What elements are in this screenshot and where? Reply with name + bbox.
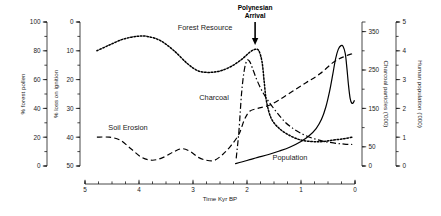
axis-loss_on_ignition: 01020304050% loss on ignition <box>52 18 80 169</box>
axis-charcoal_particles: 350250150500Charcoal particles ('000) <box>362 22 390 169</box>
series-label-charcoal: Charcoal <box>199 93 229 102</box>
axis-title: % loss on ignition <box>52 69 59 118</box>
axis-title: Time Kyr BP <box>203 195 238 202</box>
axis-tick-label: 100 <box>30 18 41 25</box>
axis-tick-label: 50 <box>369 143 377 150</box>
axis-tick-label: 4 <box>403 47 407 54</box>
series-label-soil-erosion: Soil Erosion <box>108 123 147 132</box>
axis-tick-label: 20 <box>66 76 74 83</box>
axis-tick-label: 0 <box>70 18 74 25</box>
axis-time: 543210Time Kyr BP <box>83 180 357 202</box>
axis-tick-label: 40 <box>33 105 41 112</box>
axis-spine <box>362 22 366 166</box>
axis-tick-label: 50 <box>66 162 74 169</box>
annotation-text-line2: Arrival <box>245 12 266 19</box>
annotation-text-line1: Polynesian <box>238 4 273 12</box>
axis-tick-label: 3 <box>191 186 195 193</box>
axis-tick-label: 0 <box>37 162 41 169</box>
axis-tick-label: 350 <box>369 28 380 35</box>
axis-tick-label: 80 <box>33 47 41 54</box>
series-label-forest-resource: Forest Resource <box>178 23 233 32</box>
axis-tick-label: 0 <box>353 186 357 193</box>
down-arrow-icon <box>252 38 258 45</box>
axis-tick-label: 40 <box>66 134 74 141</box>
series-line <box>235 45 354 163</box>
axis-tick-label: 1 <box>299 186 303 193</box>
axis-tick-label: 0 <box>369 162 373 169</box>
series-label-population: Population <box>273 153 308 162</box>
axis-tick-label: 20 <box>33 134 41 141</box>
chart-figure: 100806040200% forest pollen01020304050% … <box>0 0 441 216</box>
axis-tick-label: 150 <box>369 105 380 112</box>
axis-tick-label: 5 <box>403 18 407 25</box>
axis-forest_pollen: 100806040200% forest pollen <box>19 18 47 169</box>
annotation-polynesian-arrival: PolynesianArrival <box>238 4 273 45</box>
axis-tick-label: 10 <box>66 47 74 54</box>
axis-tick-label: 1 <box>403 134 407 141</box>
axis-tick-label: 2 <box>245 186 249 193</box>
axis-tick-label: 4 <box>137 186 141 193</box>
series-population <box>235 45 354 163</box>
axis-tick-label: 3 <box>403 76 407 83</box>
axis-tick-label: 30 <box>66 105 74 112</box>
axis-tick-label: 5 <box>83 186 87 193</box>
axis-tick-label: 0 <box>403 162 407 169</box>
multi-axis-time-series-chart: 100806040200% forest pollen01020304050% … <box>0 0 441 216</box>
axis-tick-label: 2 <box>403 105 407 112</box>
axis-title: Human population ('000) <box>417 60 424 128</box>
axis-title: Charcoal particles ('000) <box>383 61 390 128</box>
axis-tick-label: 60 <box>33 76 41 83</box>
axis-human_population: 543210Human population ('000) <box>396 18 424 169</box>
axis-tick-label: 250 <box>369 66 380 73</box>
axis-title: % forest pollen <box>19 73 26 114</box>
